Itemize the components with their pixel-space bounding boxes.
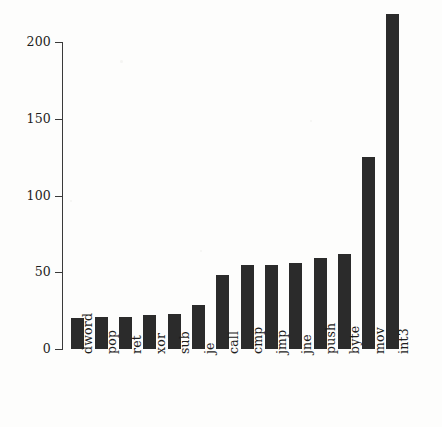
x-tick-label-dword: dword	[82, 313, 95, 354]
x-tick-label-xor: xor	[155, 333, 168, 354]
x-tick-label-je: je	[204, 342, 217, 354]
x-axis-labels: dwordpopretxorsubjecallcmpjmpjnepushbyte…	[0, 0, 442, 427]
bar-chart: 050100150200 dwordpopretxorsubjecallcmpj…	[0, 0, 442, 427]
x-tick-label-sub: sub	[179, 331, 192, 354]
x-tick-label-mov: mov	[374, 327, 387, 354]
x-tick-label-int3: int3	[398, 328, 411, 354]
x-tick-label-byte: byte	[349, 326, 362, 354]
x-tick-label-jmp: jmp	[276, 330, 289, 354]
x-tick-label-cmp: cmp	[252, 327, 265, 354]
x-tick-label-push: push	[325, 323, 338, 354]
x-tick-label-call: call	[228, 331, 241, 354]
x-tick-label-ret: ret	[131, 335, 144, 354]
x-tick-label-jne: jne	[301, 334, 314, 354]
x-tick-label-pop: pop	[106, 330, 119, 354]
